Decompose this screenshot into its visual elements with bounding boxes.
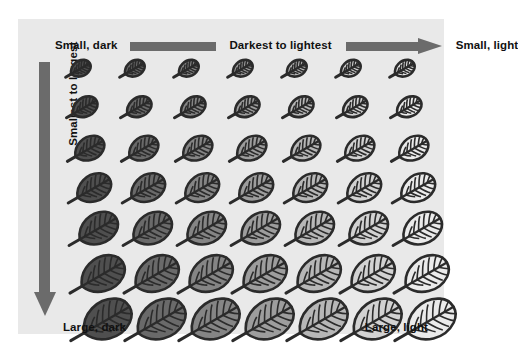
- top-label-row: Small, dark Darkest to lightest Small, l…: [18, 36, 444, 56]
- horizontal-bar-segment: [130, 42, 216, 51]
- leaf-glyph-r5-c5: [278, 208, 332, 255]
- leaf-glyph-r4-c1: [62, 170, 116, 211]
- leaf-row: [62, 170, 440, 211]
- label-small-light: Small, light: [456, 40, 518, 52]
- leaf-glyph-r3-c3: [170, 133, 224, 169]
- label-large-dark: Large, dark: [63, 322, 126, 334]
- arrow-right-shaft: [346, 42, 420, 51]
- leaf-glyph-r1-c7: [386, 58, 440, 82]
- leaf-glyph-r1-c3: [170, 58, 224, 82]
- leaf-glyph-r3-c1: [62, 133, 116, 169]
- leaf-glyph-r3-c7: [386, 133, 440, 169]
- arrow-down-head: [34, 292, 56, 316]
- label-small-dark: Small, dark: [55, 40, 117, 52]
- leaf-glyph-r4-c3: [170, 170, 224, 211]
- leaf-glyph-r2-c4: [224, 94, 278, 124]
- leaf-row: [62, 133, 440, 169]
- leaf-glyph-r5-c6: [332, 208, 386, 255]
- bottom-label-row: Large, dark Large, light: [18, 322, 444, 340]
- leaf-glyph-r4-c2: [116, 170, 170, 211]
- arrow-down-icon: [34, 62, 56, 316]
- leaf-glyph-r5-c1: [62, 208, 116, 255]
- leaf-glyph-r5-c2: [116, 208, 170, 255]
- leaf-glyph-r4-c5: [278, 170, 332, 211]
- leaf-row: [62, 58, 440, 82]
- leaf-glyph-r5-c7: [386, 208, 440, 255]
- leaf-glyph-r3-c2: [116, 133, 170, 169]
- leaf-glyph-r1-c4: [224, 58, 278, 82]
- leaf-glyph-r2-c1: [62, 94, 116, 124]
- leaf-glyph-r5-c3: [170, 208, 224, 255]
- leaf-glyph-r1-c6: [332, 58, 386, 82]
- label-large-light: Large, light: [365, 322, 428, 334]
- leaf-glyph-r2-c5: [278, 94, 332, 124]
- leaf-glyph-r1-c5: [278, 58, 332, 82]
- arrow-right-icon: [346, 38, 444, 54]
- leaf-glyph-r5-c4: [224, 208, 278, 255]
- label-darkest-to-lightest: Darkest to lightest: [229, 40, 331, 52]
- leaf-glyph-r1-c2: [116, 58, 170, 82]
- leaf-glyph-r4-c6: [332, 170, 386, 211]
- leaf-glyph-r1-c1: [62, 58, 116, 82]
- leaf-glyph-r2-c3: [170, 94, 224, 124]
- leaf-grid: [62, 58, 440, 320]
- arrow-right-head: [418, 38, 442, 54]
- arrow-down-shaft: [39, 62, 50, 294]
- leaf-row: [62, 208, 440, 255]
- leaf-glyph-r2-c7: [386, 94, 440, 124]
- leaf-glyph-r3-c4: [224, 133, 278, 169]
- leaf-glyph-r3-c5: [278, 133, 332, 169]
- leaf-glyph-r2-c2: [116, 94, 170, 124]
- leaf-row: [62, 94, 440, 124]
- leaf-glyph-r3-c6: [332, 133, 386, 169]
- leaf-glyph-r4-c4: [224, 170, 278, 211]
- leaf-glyph-r4-c7: [386, 170, 440, 211]
- leaf-glyph-r2-c6: [332, 94, 386, 124]
